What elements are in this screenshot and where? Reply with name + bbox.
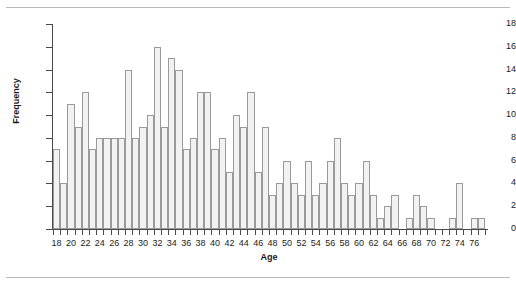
histogram-bar — [305, 161, 312, 229]
y-axis-tick — [46, 161, 52, 162]
x-axis-tick — [197, 230, 198, 235]
y-axis-title: Frequency — [11, 41, 21, 161]
x-axis-tick — [75, 230, 76, 235]
x-axis-title: Age — [53, 252, 485, 262]
x-axis-tick — [463, 230, 464, 235]
histogram-bar — [319, 183, 326, 229]
x-axis-tick — [60, 230, 61, 235]
x-axis-tick — [262, 230, 263, 235]
histogram-bar — [111, 138, 118, 229]
y-axis-tick — [46, 229, 52, 230]
x-axis-tick-label: 76 — [464, 238, 484, 248]
histogram-bar — [168, 58, 175, 229]
x-axis-tick — [478, 230, 479, 235]
histogram-bar — [255, 172, 262, 229]
x-axis-tick — [132, 230, 133, 235]
histogram-bar — [132, 138, 139, 229]
y-axis-tick — [46, 24, 52, 25]
x-axis-tick — [370, 230, 371, 235]
histogram-bar — [53, 149, 60, 229]
histogram-bar — [60, 183, 67, 229]
x-axis-tick — [247, 230, 248, 235]
histogram-bar — [125, 70, 132, 229]
x-axis-tick — [283, 230, 284, 235]
y-axis-tick — [46, 47, 52, 48]
x-axis-tick — [154, 230, 155, 235]
x-axis-tick — [219, 230, 220, 235]
x-axis-tick — [427, 230, 428, 235]
histogram-bar — [334, 138, 341, 229]
x-axis-tick — [420, 230, 421, 235]
x-axis-tick — [363, 230, 364, 235]
x-axis-tick — [103, 230, 104, 235]
y-axis-tick — [46, 92, 52, 93]
histogram-bar — [211, 149, 218, 229]
x-axis-tick — [211, 230, 212, 235]
top-divider-rule — [6, 7, 510, 8]
x-axis-tick — [125, 230, 126, 235]
x-axis-tick — [161, 230, 162, 235]
x-axis-tick — [399, 230, 400, 235]
x-axis-tick — [240, 230, 241, 235]
x-axis-tick — [413, 230, 414, 235]
histogram-bars — [53, 24, 485, 229]
histogram-bar — [478, 218, 485, 229]
histogram-bar — [355, 183, 362, 229]
x-axis-tick — [406, 230, 407, 235]
histogram-bar — [197, 92, 204, 229]
histogram-bar — [427, 218, 434, 229]
y-axis-tick — [46, 138, 52, 139]
histogram-bar — [247, 92, 254, 229]
histogram-bar — [103, 138, 110, 229]
x-axis-tick — [377, 230, 378, 235]
x-axis-tick — [456, 230, 457, 235]
x-axis-tick — [53, 230, 54, 235]
histogram-bar — [183, 149, 190, 229]
x-axis-tick — [319, 230, 320, 235]
histogram-bar — [291, 183, 298, 229]
x-axis-tick — [118, 230, 119, 235]
histogram-bar — [348, 195, 355, 229]
histogram-bar — [283, 161, 290, 229]
x-axis-tick — [298, 230, 299, 235]
histogram-bar — [312, 195, 319, 229]
histogram-bar — [89, 149, 96, 229]
histogram-bar — [341, 183, 348, 229]
x-axis-tick — [269, 230, 270, 235]
histogram-bar — [456, 183, 463, 229]
x-axis-tick — [312, 230, 313, 235]
histogram-bar — [118, 138, 125, 229]
histogram-bar — [377, 218, 384, 229]
x-axis-tick — [305, 230, 306, 235]
histogram-bar — [226, 172, 233, 229]
x-axis-tick — [384, 230, 385, 235]
histogram-bar — [298, 195, 305, 229]
histogram-bar — [406, 218, 413, 229]
x-axis-tick — [355, 230, 356, 235]
histogram-bar — [139, 127, 146, 230]
histogram-bar — [391, 195, 398, 229]
x-axis-tick — [327, 230, 328, 235]
histogram-bar — [269, 195, 276, 229]
histogram-bar — [240, 127, 247, 230]
x-axis-tick — [291, 230, 292, 235]
x-axis-tick — [233, 230, 234, 235]
histogram-bar — [190, 138, 197, 229]
histogram-bar — [363, 161, 370, 229]
histogram-figure: 024681012141618 Frequency 18202224262830… — [0, 0, 516, 285]
histogram-bar — [204, 92, 211, 229]
x-axis-tick — [183, 230, 184, 235]
x-axis-tick — [89, 230, 90, 235]
x-axis-tick — [190, 230, 191, 235]
y-axis-tick — [46, 70, 52, 71]
x-axis-tick — [139, 230, 140, 235]
x-axis-tick — [175, 230, 176, 235]
x-axis-tick — [111, 230, 112, 235]
histogram-bar — [161, 127, 168, 230]
histogram-bar — [75, 127, 82, 230]
histogram-bar — [233, 115, 240, 229]
histogram-bar — [420, 206, 427, 229]
histogram-bar — [219, 138, 226, 229]
histogram-bar — [471, 218, 478, 229]
histogram-bar — [449, 218, 456, 229]
